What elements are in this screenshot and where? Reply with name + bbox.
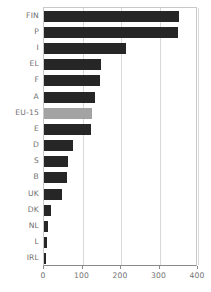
bar-i (44, 43, 126, 54)
bar-row (44, 186, 62, 202)
bar-row (44, 40, 126, 56)
bar-row (44, 8, 179, 24)
category-label-s: S (34, 153, 39, 169)
category-label-irl: IRL (27, 250, 39, 266)
bar-eu-15 (44, 108, 92, 119)
plot-area (43, 7, 197, 266)
x-tick-label: 300 (151, 271, 166, 280)
category-axis: FINPIELFAEU-15EDSBUKDKNLLIRL (0, 7, 43, 266)
bar-row (44, 89, 95, 105)
bar-e (44, 124, 91, 135)
bar-row (44, 202, 51, 218)
x-tick-label: 0 (40, 271, 45, 280)
x-tick-mark (82, 266, 83, 269)
x-axis: 0100200300400 (43, 266, 197, 286)
bar-b (44, 172, 67, 183)
x-tick-label: 100 (74, 271, 89, 280)
bar-row (44, 121, 91, 137)
bar-row (44, 105, 92, 121)
category-label-d: D (33, 137, 39, 153)
bar-row (44, 251, 46, 267)
bar-uk (44, 189, 62, 200)
bar-irl (44, 253, 46, 264)
bar-d (44, 140, 73, 151)
bar-p (44, 27, 178, 38)
bar-row (44, 218, 48, 234)
bar-a (44, 92, 95, 103)
category-label-a: A (34, 88, 39, 104)
category-label-eu-15: EU-15 (15, 104, 39, 120)
category-label-dk: DK (28, 201, 39, 217)
x-tick-label: 400 (189, 271, 204, 280)
bar-nl (44, 221, 48, 232)
category-label-b: B (34, 169, 39, 185)
category-label-l: L (35, 234, 39, 250)
bar-row (44, 154, 68, 170)
category-label-f: F (34, 72, 39, 88)
bar-row (44, 138, 73, 154)
category-label-uk: UK (28, 185, 39, 201)
gridline (198, 8, 199, 265)
category-label-nl: NL (29, 217, 39, 233)
bar-f (44, 75, 100, 86)
category-label-fin: FIN (26, 7, 39, 23)
bar-l (44, 237, 47, 248)
category-label-i: I (37, 39, 39, 55)
x-tick-mark (197, 266, 198, 269)
bar-chart: FINPIELFAEU-15EDSBUKDKNLLIRL 01002003004… (0, 0, 211, 292)
bar-s (44, 156, 68, 167)
x-tick-mark (159, 266, 160, 269)
x-tick-mark (120, 266, 121, 269)
bar-row (44, 24, 178, 40)
category-label-p: P (34, 23, 39, 39)
bar-row (44, 170, 67, 186)
gridline (160, 8, 161, 265)
bar-dk (44, 205, 51, 216)
category-label-el: EL (30, 56, 39, 72)
bar-row (44, 73, 100, 89)
x-tick-label: 200 (112, 271, 127, 280)
bar-el (44, 59, 101, 70)
category-label-e: E (34, 120, 39, 136)
bar-fin (44, 11, 179, 22)
bar-row (44, 235, 47, 251)
bar-row (44, 57, 101, 73)
x-tick-mark (43, 266, 44, 269)
